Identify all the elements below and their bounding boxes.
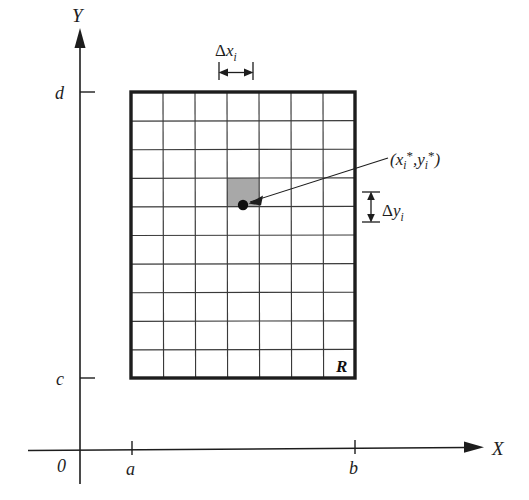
delta-x-left-arrowhead (219, 69, 229, 77)
delta-y-bottom-arrowhead (367, 214, 375, 223)
grid-line-horizontal (131, 321, 355, 322)
x-axis-label: X (491, 438, 505, 459)
region-label-R: R (335, 357, 347, 376)
delta-x-annotation: Δxi (215, 41, 254, 80)
delta-y-label: Δyi (382, 201, 404, 223)
y-base: y (415, 150, 425, 169)
y-tick-label-d: d (55, 83, 65, 103)
delta-y-subscript: i (400, 211, 403, 223)
delta-x-subscript: i (233, 51, 236, 63)
delta-x-label: Δxi (215, 41, 237, 63)
delta-y-annotation: Δyi (362, 192, 404, 224)
grid-line-horizontal (131, 121, 355, 122)
y-ticks-group: d c (55, 83, 95, 389)
y-axis-arrowhead (75, 28, 86, 48)
x-tick-label-a: a (126, 459, 135, 479)
riemann-sum-diagram: Y X 0 d c a b (0, 0, 529, 500)
origin-label: 0 (57, 456, 66, 476)
axes-group: Y X 0 (28, 5, 505, 484)
partition-grid (131, 92, 355, 378)
sample-point-marker (238, 200, 248, 210)
delta-y-base: y (391, 201, 401, 220)
diagram-canvas: Y X 0 d c a b (0, 0, 529, 500)
x-ticks-group: a b (126, 440, 358, 479)
grid-line-horizontal (131, 149, 355, 150)
delta-x-symbol: Δ (215, 41, 226, 60)
grid-line-horizontal (131, 178, 355, 179)
delta-y-top-arrowhead (367, 192, 375, 201)
delta-x-right-arrowhead (244, 69, 254, 77)
x-axis-line (28, 448, 466, 451)
grid-line-horizontal (131, 235, 355, 236)
sample-point-label: (xi*,yi*) (390, 148, 440, 171)
y-axis-label: Y (72, 5, 85, 26)
paren-close: ) (433, 150, 440, 169)
grid-line-horizontal (131, 292, 355, 293)
grid-line-horizontal (131, 264, 355, 265)
sample-point-leader-line (250, 158, 388, 202)
y-tick-label-c: c (56, 369, 64, 389)
grid-line-horizontal (131, 349, 355, 350)
x-tick-label-b: b (349, 458, 358, 478)
x-axis-arrowhead (464, 442, 484, 453)
delta-y-symbol: Δ (382, 201, 393, 220)
